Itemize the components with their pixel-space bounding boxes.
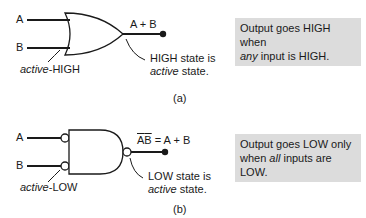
output-note-b-2: active state.	[148, 183, 207, 196]
caption-a: (a)	[173, 92, 186, 105]
box-a-line1: Output goes HIGH when	[240, 21, 356, 49]
output-label-b: AB = A + B	[137, 134, 190, 147]
input-a-label-b: A	[16, 131, 23, 144]
input-b-label-a: B	[16, 41, 23, 54]
input-b-bubble	[61, 162, 69, 170]
input-note-a: active-HIGH	[20, 63, 80, 76]
description-box-b: Output goes LOW only when all inputs are…	[235, 134, 361, 182]
output-pointer-a	[126, 39, 145, 60]
output-bubble	[123, 148, 131, 156]
description-box-a: Output goes HIGH when any input is HIGH.	[235, 18, 361, 66]
input-note-b: active-LOW	[20, 181, 77, 194]
caption-b: (b)	[173, 203, 186, 216]
input-pointer-a	[48, 50, 60, 62]
input-a-bubble	[61, 134, 69, 142]
input-a-label-a: A	[16, 13, 23, 26]
output-note-a-1: HIGH state is	[150, 52, 215, 65]
output-label-a: A + B	[130, 18, 157, 31]
box-a-line2: any input is HIGH.	[240, 49, 356, 63]
box-b-line1: Output goes LOW only	[240, 137, 356, 151]
or-gate-shape	[65, 13, 123, 55]
output-note-a-2: active state.	[150, 65, 209, 78]
output-note-b-1: LOW state is	[148, 170, 211, 183]
output-pointer-b	[130, 158, 143, 178]
input-b-label-b: B	[16, 159, 23, 172]
output-terminal-b	[162, 149, 168, 155]
output-terminal-a	[160, 31, 166, 37]
and-gate-shape	[69, 130, 123, 174]
box-b-line2: when all inputs are LOW.	[240, 151, 356, 179]
